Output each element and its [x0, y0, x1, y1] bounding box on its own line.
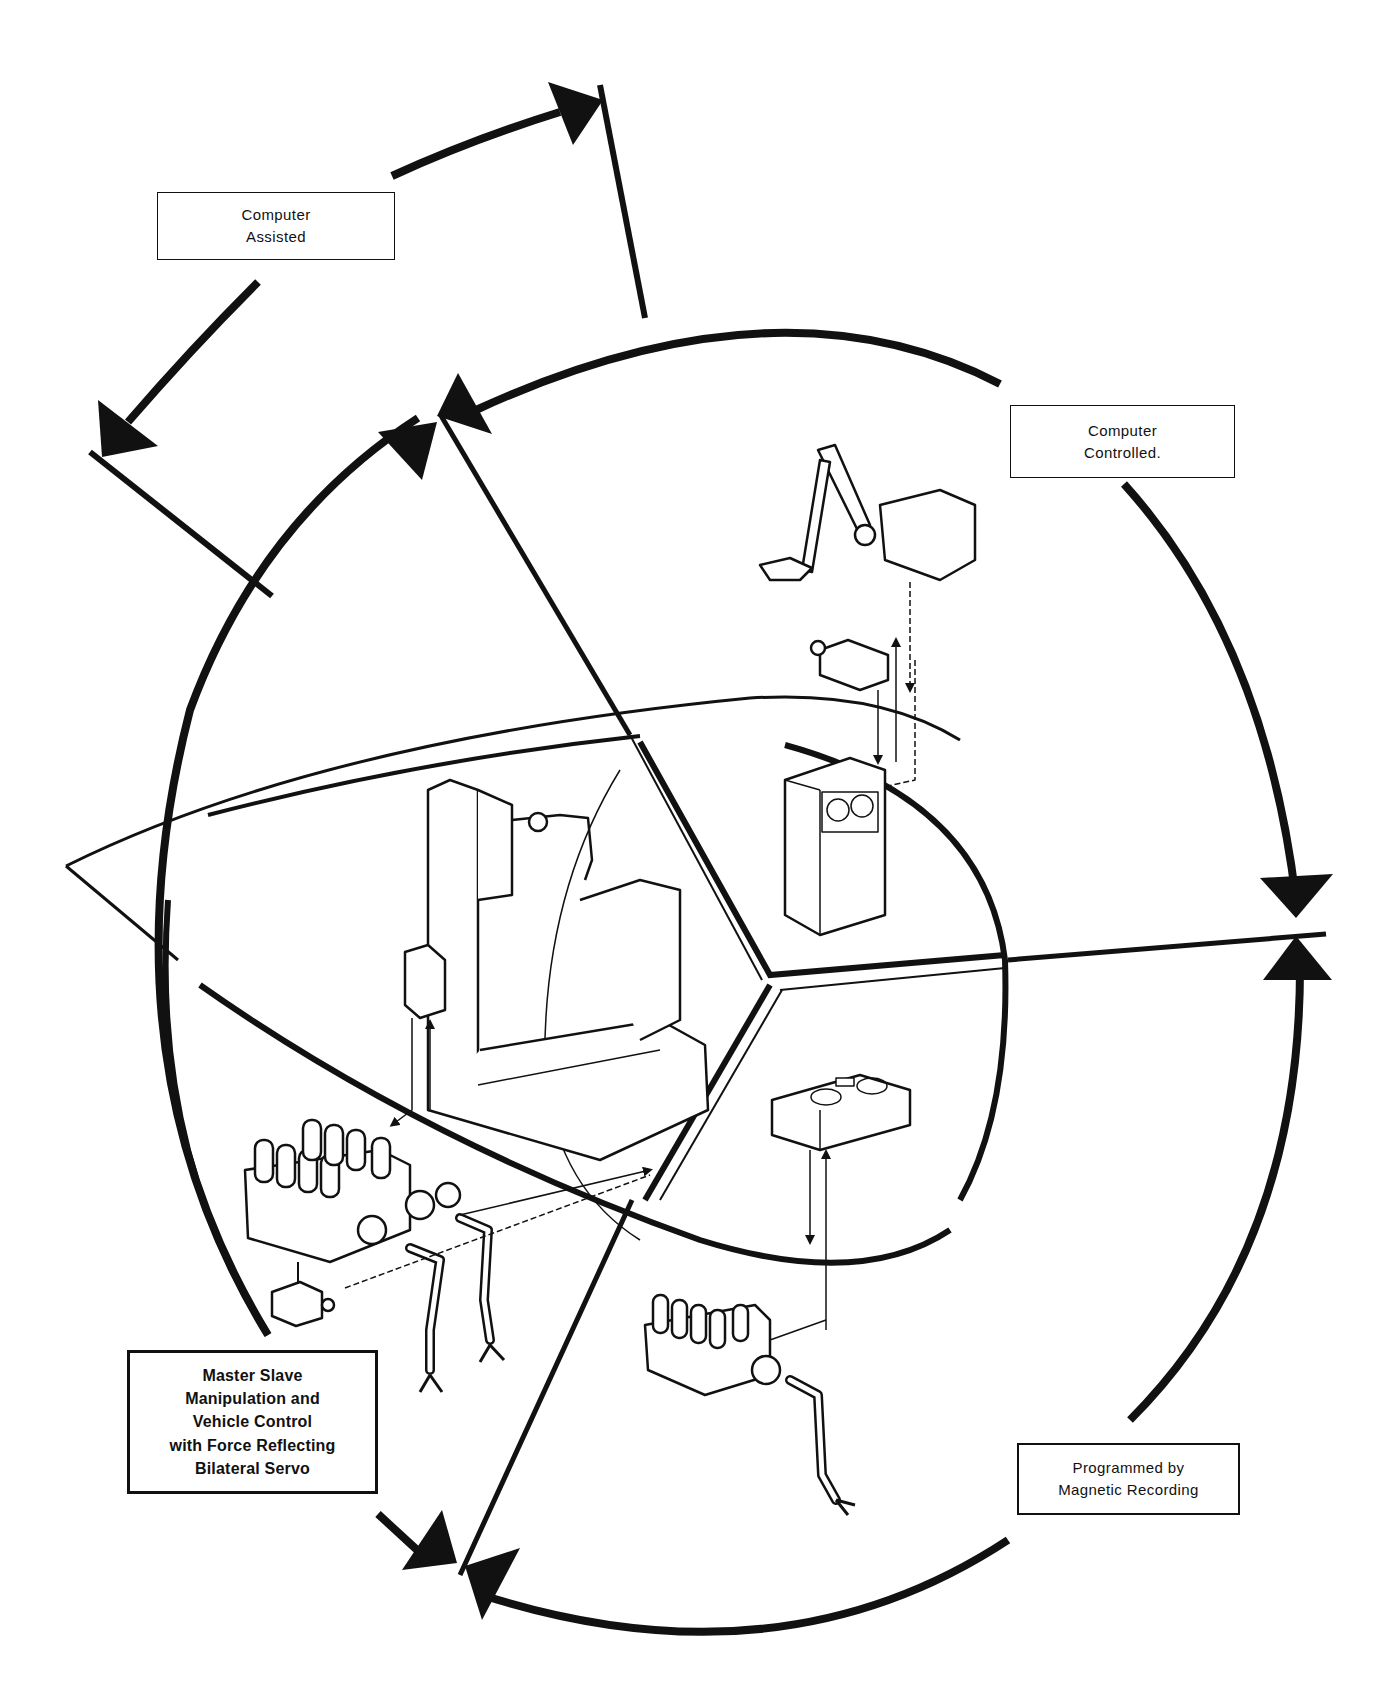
arc-right-up	[1130, 968, 1300, 1420]
divider-top	[600, 85, 645, 318]
label-computer-controlled: Computer Controlled.	[1010, 405, 1235, 478]
divider-upper-spoke	[440, 414, 630, 735]
label-computer-assisted: Computer Assisted	[157, 192, 395, 260]
label-line: Computer	[241, 204, 310, 226]
label-line: Magnetic Recording	[1058, 1479, 1199, 1501]
arrowhead-left-up	[378, 422, 437, 480]
arc-top-assisted-to-controlled	[392, 112, 560, 176]
label-line: Vehicle Control	[193, 1410, 312, 1433]
label-line: Manipulation and	[185, 1387, 320, 1410]
arc-assisted-down	[128, 282, 258, 422]
label-line: Assisted	[246, 226, 306, 248]
label-line: Programmed by	[1073, 1457, 1185, 1479]
label-line: Computer	[1088, 420, 1157, 442]
label-line: Master Slave	[202, 1364, 302, 1387]
programmed-recording-illustration	[645, 1075, 910, 1515]
label-line: Controlled.	[1084, 442, 1161, 464]
arrowhead-right-down	[1260, 874, 1333, 918]
arrowhead-bottom-right	[465, 1548, 520, 1620]
label-master-slave: Master Slave Manipulation and Vehicle Co…	[127, 1350, 378, 1494]
label-line: Bilateral Servo	[195, 1457, 310, 1480]
main-ring	[166, 900, 268, 1335]
label-programmed-magnetic-recording: Programmed by Magnetic Recording	[1017, 1443, 1240, 1515]
label-line: with Force Reflecting	[170, 1434, 336, 1457]
arc-top-inner	[476, 333, 1000, 410]
divider-left	[90, 452, 272, 596]
arc-bottom	[482, 1540, 1008, 1632]
computer-controlled-illustration	[760, 445, 975, 935]
arc-right-down	[1124, 484, 1296, 900]
divider-right	[1008, 934, 1326, 960]
arrowhead-right-up	[1263, 936, 1332, 980]
arrowhead-left-down	[98, 400, 158, 457]
